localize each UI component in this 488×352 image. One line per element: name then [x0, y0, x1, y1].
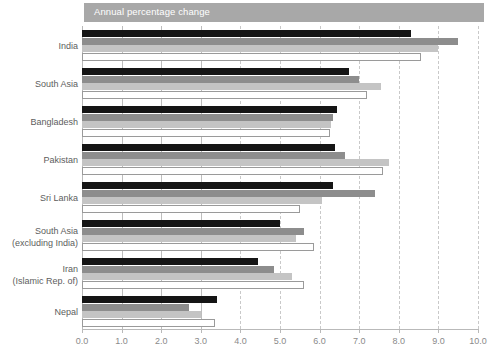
- x-tick-label: 9.0: [418, 336, 458, 346]
- x-tick-label: 0.0: [62, 336, 102, 346]
- bar: [82, 167, 383, 175]
- x-tick: [359, 329, 360, 333]
- category-label-line1: South Asia: [35, 79, 78, 89]
- x-tick: [399, 329, 400, 333]
- bar: [82, 296, 217, 303]
- x-tick-label: 6.0: [300, 336, 340, 346]
- category-label-line1: South Asia: [35, 226, 78, 236]
- bar: [82, 159, 389, 166]
- x-tick: [201, 329, 202, 333]
- x-tick-label: 3.0: [181, 336, 221, 346]
- chart-root: Annual percentage change IndiaSouth Asia…: [0, 0, 488, 352]
- bar: [82, 197, 322, 204]
- bar: [82, 152, 345, 159]
- bar: [82, 68, 349, 75]
- x-tick-label: 1.0: [102, 336, 142, 346]
- bar-group: [82, 144, 478, 182]
- bar: [82, 228, 304, 235]
- bar: [82, 235, 296, 242]
- bar-group: [82, 258, 478, 296]
- category-label: Iran(Islamic Rep. of): [0, 264, 78, 287]
- category-label: India: [0, 41, 78, 53]
- bar: [82, 38, 458, 45]
- bar-group: [82, 68, 478, 106]
- bar: [82, 106, 337, 113]
- category-label: Bangladesh: [0, 117, 78, 129]
- category-label-line1: Bangladesh: [30, 117, 78, 127]
- bar: [82, 220, 280, 227]
- bar: [82, 83, 381, 90]
- category-label-line1: Iran: [62, 264, 78, 274]
- x-tick: [478, 329, 479, 333]
- plot-area: [82, 26, 478, 329]
- category-label-line1: Sri Lanka: [40, 193, 78, 203]
- bar: [82, 76, 359, 83]
- bar: [82, 91, 367, 99]
- x-tick-label: 8.0: [379, 336, 419, 346]
- category-label: Pakistan: [0, 155, 78, 167]
- gridline: [478, 26, 479, 329]
- x-tick: [82, 329, 83, 333]
- category-label: South Asia(excluding India): [0, 226, 78, 249]
- bar: [82, 304, 189, 311]
- bar: [82, 258, 258, 265]
- bar: [82, 129, 330, 137]
- bar: [82, 273, 292, 280]
- chart-header-band: Annual percentage change: [84, 3, 484, 22]
- x-tick: [240, 329, 241, 333]
- bar: [82, 144, 335, 151]
- x-tick: [438, 329, 439, 333]
- x-tick: [280, 329, 281, 333]
- bar-group: [82, 182, 478, 220]
- category-label-line1: India: [58, 41, 78, 51]
- bar: [82, 45, 438, 52]
- bar-group: [82, 106, 478, 144]
- bar: [82, 311, 201, 318]
- category-label-line2: (Islamic Rep. of): [0, 276, 78, 288]
- bar: [82, 243, 314, 251]
- x-tick: [320, 329, 321, 333]
- x-tick-label: 2.0: [141, 336, 181, 346]
- x-tick-label: 7.0: [339, 336, 379, 346]
- x-tick-label: 5.0: [260, 336, 300, 346]
- category-label-line1: Nepal: [54, 307, 78, 317]
- x-tick: [122, 329, 123, 333]
- bar: [82, 114, 333, 121]
- category-label-line2: (excluding India): [0, 238, 78, 250]
- bar: [82, 205, 300, 213]
- bar: [82, 266, 274, 273]
- bar-group: [82, 220, 478, 258]
- chart-title: Annual percentage change: [94, 6, 210, 17]
- category-label: Nepal: [0, 307, 78, 319]
- x-tick-label: 10.0: [458, 336, 488, 346]
- x-tick: [161, 329, 162, 333]
- category-label: Sri Lanka: [0, 193, 78, 205]
- bar: [82, 53, 421, 61]
- category-label: South Asia: [0, 79, 78, 91]
- bar: [82, 121, 331, 128]
- bar-group: [82, 30, 478, 68]
- bar: [82, 30, 411, 37]
- bar: [82, 182, 333, 189]
- bar: [82, 281, 304, 289]
- category-label-line1: Pakistan: [43, 155, 78, 165]
- bar: [82, 190, 375, 197]
- bar: [82, 319, 215, 327]
- x-tick-label: 4.0: [220, 336, 260, 346]
